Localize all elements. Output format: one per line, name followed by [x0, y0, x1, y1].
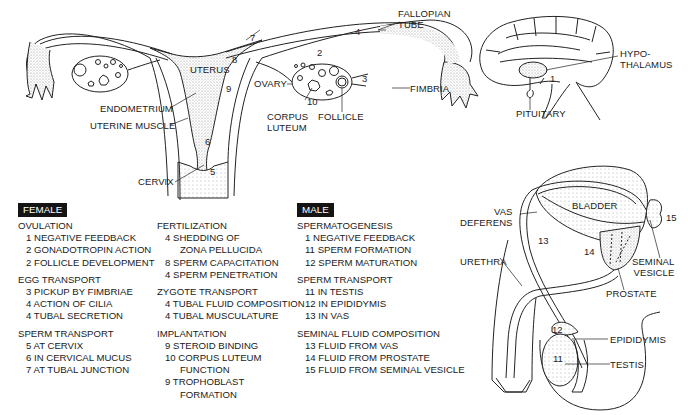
legend-group: OVULATION1 NEGATIVE FEEDBACK2 GONADOTROP…: [18, 220, 155, 269]
legend-item-text: SHEDDING OF: [173, 232, 240, 243]
legend-item-number: 14: [305, 352, 316, 364]
num-12: 12: [552, 325, 563, 335]
legend-item: 13 FLUID FROM VAS: [297, 340, 465, 352]
legend-item-text: TUBAL MUSCULATURE: [173, 310, 279, 321]
legend-item-text: TROPHOBLAST: [173, 376, 244, 387]
legend-item-number: 4: [26, 298, 31, 310]
legend-item: 4 SHEDDING OFZONA PELLUCIDA: [157, 232, 305, 256]
num-11: 11: [553, 354, 563, 364]
legend-item-text: SPERM CAPACITATION: [173, 257, 279, 268]
female-legend: FEMALE OVULATION1 NEGATIVE FEEDBACK2 GON…: [18, 203, 155, 381]
legend-item-text: SPERM MATURATION: [318, 257, 417, 268]
legend-item-number: 1: [305, 232, 310, 244]
legend-item: 14 FLUID FROM PROSTATE: [297, 352, 465, 364]
legend-item-text-continued: FUNCTION: [165, 364, 305, 376]
legend-group-title: OVULATION: [18, 220, 155, 232]
legend-item: 5 AT CERVIX: [18, 340, 155, 352]
legend-item-text-continued: FORMATION: [165, 389, 305, 401]
label-testis: TESTIS: [610, 359, 644, 370]
label-fimbria: FIMBRIA: [410, 83, 449, 94]
legend-item-text-continued: ZONA PELLUCIDA: [165, 244, 305, 256]
legend-item-number: 2: [26, 244, 31, 256]
legend-group: ZYGOTE TRANSPORT4 TUBAL FLUID COMPOSITIO…: [157, 286, 305, 323]
legend-item-number: 8: [165, 257, 170, 269]
legend-item: 12 SPERM MATURATION: [297, 257, 465, 269]
num-9: 9: [226, 84, 231, 94]
legend-item-text: IN EPIDIDYMIS: [318, 298, 386, 309]
male-legend: MALE SPERMATOGENESIS1 NEGATIVE FEEDBACK1…: [297, 203, 465, 381]
legend-item: 11 IN TESTIS: [297, 286, 465, 298]
num-8: 8: [232, 55, 237, 65]
legend-item-number: 4: [165, 310, 170, 322]
legend-item: 4 TUBAL MUSCULATURE: [157, 310, 305, 322]
legend-group-title: IMPLANTATION: [157, 328, 305, 340]
num-7: 7: [250, 33, 255, 43]
legend-item: 11 SPERM FORMATION: [297, 244, 465, 256]
legend-item: 1 NEGATIVE FEEDBACK: [297, 232, 465, 244]
legend-item: 2 FOLLICLE DEVELOPMENT: [18, 257, 155, 269]
legend-item-text: TUBAL SECRETION: [34, 310, 123, 321]
legend-item: 4 TUBAL FLUID COMPOSITION: [157, 298, 305, 310]
legend-item-text: STEROID BINDING: [173, 340, 258, 351]
legend-item-number: 13: [305, 310, 316, 322]
label-endometrium: ENDOMETRIUM: [100, 103, 173, 114]
legend-group: IMPLANTATION9 STEROID BINDING10 CORPUS L…: [157, 328, 305, 401]
legend-item-text: IN VAS: [318, 310, 349, 321]
legend-item-text: IN TESTIS: [318, 286, 364, 297]
num-4: 4: [355, 27, 360, 37]
legend-item-number: 12: [305, 257, 316, 269]
num-15: 15: [666, 213, 677, 223]
label-uterus: UTERUS: [190, 64, 230, 75]
legend-item-text: IN CERVICAL MUCUS: [34, 352, 132, 363]
legend-item-text: SPERM PENETRATION: [173, 269, 277, 280]
legend-item-text: ACTION OF CILIA: [33, 298, 112, 309]
label-fallopian-tube: FALLOPIAN TUBE: [398, 8, 451, 30]
label-hypothalamus: HYPO- THALAMUS: [620, 48, 673, 70]
num-2: 2: [317, 48, 322, 58]
legend-item-number: 11: [305, 244, 315, 256]
legend-item: 13 IN VAS: [297, 310, 465, 322]
legend-group-title: SPERMATOGENESIS: [297, 220, 465, 232]
legend-item: 9 TROPHOBLASTFORMATION: [157, 376, 305, 400]
legend-item-number: 6: [26, 352, 31, 364]
num-10: 10: [307, 97, 318, 107]
legend-item-text: FLUID FROM PROSTATE: [318, 352, 430, 363]
legend-item-number: 7: [26, 364, 31, 376]
label-epididymis: EPIDIDYMIS: [610, 334, 666, 345]
label-vas-deferens: VAS DEFERENS: [460, 206, 513, 228]
label-seminal-vesicle: SEMINAL VESICLE: [632, 256, 674, 278]
legend-item: 6 IN CERVICAL MUCUS: [18, 352, 155, 364]
legend-item-number: 4: [165, 232, 170, 244]
num-13: 13: [538, 236, 549, 246]
legend-group: EGG TRANSPORT3 PICKUP BY FIMBRIAE4 ACTIO…: [18, 274, 155, 323]
legend-item-number: 4: [26, 310, 31, 322]
legend-item-number: 10: [165, 352, 176, 364]
legend-item-number: 11: [305, 286, 315, 298]
legend-item-text: NEGATIVE FEEDBACK: [313, 232, 415, 243]
legend-group: SPERM TRANSPORT11 IN TESTIS12 IN EPIDIDY…: [297, 274, 465, 323]
num-5: 5: [210, 167, 215, 177]
legend-item-text: PICKUP BY FIMBRIAE: [34, 286, 133, 297]
legend-item-text: NEGATIVE FEEDBACK: [34, 232, 136, 243]
legend-item-text: GONADOTROPIN ACTION: [34, 244, 151, 255]
female-tag: FEMALE: [18, 203, 67, 217]
legend-item: 8 SPERM CAPACITATION: [157, 257, 305, 269]
legend-item-text: SPERM FORMATION: [318, 244, 412, 255]
legend-item-text: AT TUBAL JUNCTION: [33, 364, 129, 375]
label-prostate: PROSTATE: [606, 288, 657, 299]
legend-item-number: 5: [26, 340, 31, 352]
legend-item-number: 4: [165, 298, 170, 310]
num-1: 1: [550, 74, 555, 84]
legend-group-title: EGG TRANSPORT: [18, 274, 155, 286]
label-bladder: BLADDER: [572, 200, 618, 211]
legend-item-number: 13: [305, 340, 316, 352]
female-legend-col2: FERTILIZATION4 SHEDDING OFZONA PELLUCIDA…: [157, 220, 305, 406]
legend-group-title: SEMINAL FLUID COMPOSITION: [297, 328, 465, 340]
female-reproductive-diagram: [26, 20, 478, 200]
legend-item-text: CORPUS LUTEUM: [178, 352, 261, 363]
legend-group-title: SPERM TRANSPORT: [18, 328, 155, 340]
legend-item: 15 FLUID FROM SEMINAL VESICLE: [297, 364, 465, 376]
legend-group-title: ZYGOTE TRANSPORT: [157, 286, 305, 298]
legend-item: 4 SPERM PENETRATION: [157, 269, 305, 281]
legend-group: SPERM TRANSPORT5 AT CERVIX6 IN CERVICAL …: [18, 328, 155, 377]
